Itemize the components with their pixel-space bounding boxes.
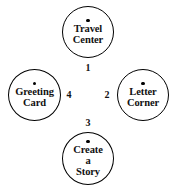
node-label-create-a-story: Create a Story [73,144,103,177]
edge-label-2: 2 [100,90,114,100]
node-travel-center[interactable]: Travel Center [62,6,114,58]
edge-label-3: 3 [80,118,96,128]
node-create-a-story[interactable]: Create a Story [62,132,114,185]
node-label-greeting-card: Greeting Card [15,86,54,108]
edge-label-1: 1 [80,63,96,73]
bullet-dot-icon [33,82,37,86]
node-greeting-card[interactable]: Greeting Card [8,69,61,121]
node-label-letter-corner: Letter Corner [127,86,159,108]
bullet-dot-icon [86,19,90,23]
node-label-travel-center: Travel Center [73,23,103,45]
bullet-dot-icon [141,82,145,86]
node-letter-corner[interactable]: Letter Corner [117,69,169,121]
diagram-canvas: Travel Center Letter Corner Create a Sto… [0,0,175,193]
edge-label-4: 4 [62,90,76,100]
bullet-dot-icon [86,140,90,144]
